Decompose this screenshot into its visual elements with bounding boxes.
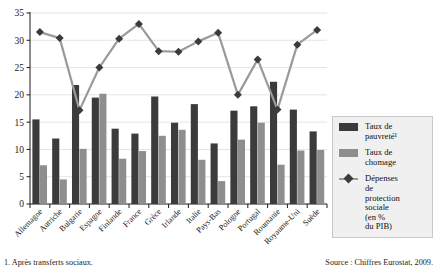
bar xyxy=(230,111,237,204)
bar xyxy=(211,143,218,204)
legend-item: Dépenses de protection sociale (en % du … xyxy=(338,174,428,232)
bar xyxy=(40,165,47,204)
bar xyxy=(317,150,324,204)
line-marker-diamond xyxy=(214,29,222,37)
bar xyxy=(159,136,166,204)
bar xyxy=(32,119,39,204)
y-axis: 05101520253035 xyxy=(15,8,31,209)
bar xyxy=(151,96,158,204)
y-tick-label: 25 xyxy=(15,63,25,73)
x-tick-label: Suède xyxy=(301,207,322,228)
source-text: Source : Chiffres Eurostat, 2009. xyxy=(325,258,433,267)
y-tick-label: 35 xyxy=(15,8,25,18)
bar xyxy=(52,139,59,204)
bar xyxy=(131,134,138,204)
bar xyxy=(218,181,225,204)
y-tick-label: 5 xyxy=(19,172,24,182)
y-tick-label: 0 xyxy=(19,199,24,209)
bar xyxy=(198,160,205,204)
y-tick-label: 20 xyxy=(15,90,25,100)
line-marker-diamond xyxy=(175,48,183,56)
line-marker-diamond xyxy=(36,28,44,36)
bar xyxy=(250,106,257,204)
bar xyxy=(238,140,245,204)
bar xyxy=(139,151,146,204)
bar xyxy=(310,131,317,204)
chart-legend: Taux de pauvreté¹Taux de chomageDépenses… xyxy=(332,116,433,238)
bar xyxy=(119,159,126,204)
legend-label: Taux de pauvreté¹ xyxy=(365,122,397,141)
legend-item: Taux de chomage xyxy=(338,148,428,167)
x-tick-labels: AllemagneAutricheBulgarieEspagneFinlande… xyxy=(13,207,322,247)
bar xyxy=(92,98,99,204)
legend-swatch-square xyxy=(339,123,358,131)
bar xyxy=(191,104,198,204)
legend-marker-diamond xyxy=(339,174,358,183)
x-tick-label: Irlande xyxy=(160,207,183,230)
bar xyxy=(179,130,186,204)
y-tick-label: 30 xyxy=(15,36,25,46)
bar xyxy=(258,123,265,204)
legend-item: Taux de pauvreté¹ xyxy=(338,122,428,141)
line-marker-diamond xyxy=(56,34,64,42)
legend-label: Taux de chomage xyxy=(365,148,396,167)
bar xyxy=(290,110,297,204)
legend-label: Dépenses de protection sociale (en % du … xyxy=(365,174,400,232)
bar xyxy=(278,165,285,204)
x-tick-label: Allemagne xyxy=(13,207,45,239)
legend-swatch-square xyxy=(339,149,358,157)
footnote-text: 1. Après transferts sociaux. xyxy=(4,258,93,267)
x-axis xyxy=(30,204,327,208)
bar xyxy=(99,94,106,204)
bar xyxy=(60,179,67,204)
bar xyxy=(80,149,87,204)
bar xyxy=(112,129,119,204)
bar xyxy=(297,151,304,204)
line-marker-diamond xyxy=(194,37,202,45)
y-tick-label: 15 xyxy=(15,118,25,128)
bar xyxy=(171,123,178,204)
y-tick-label: 10 xyxy=(15,145,25,155)
x-tick-label: France xyxy=(121,207,143,229)
